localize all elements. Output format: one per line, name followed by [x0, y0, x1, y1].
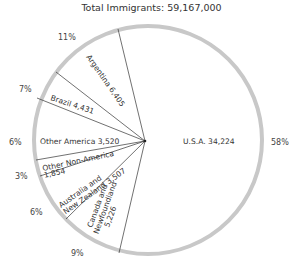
slice-label-other-america: Other America 3,520	[40, 137, 120, 146]
pie-chart: U.S.A. 34,224 Argentina 6,405 Brazil 4,4…	[0, 0, 303, 272]
pct-usa: 58%	[271, 138, 289, 147]
pct-brazil: 7%	[19, 85, 32, 94]
slice-label-usa: U.S.A. 34,224	[183, 137, 235, 146]
pct-other-non-america: 3%	[15, 172, 28, 181]
pie-center	[144, 140, 147, 143]
pct-canada: 9%	[71, 249, 84, 258]
pct-australia: 6%	[30, 208, 43, 217]
pct-other-america: 6%	[9, 138, 22, 147]
pct-argentina: 11%	[58, 33, 76, 42]
